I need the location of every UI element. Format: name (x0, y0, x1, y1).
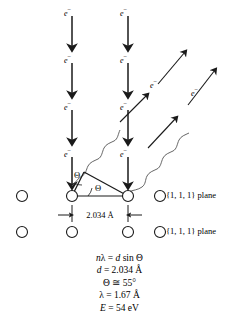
equation-bragg-condition: nλ = d sin Θ (0, 252, 239, 264)
atom-row-bottom (17, 227, 166, 238)
electron-label-low-right: e− (120, 147, 127, 159)
electron-label-diffracted-outer: e− (191, 86, 198, 98)
theta-label-base: Θ (95, 183, 101, 193)
atom-circle (17, 191, 28, 202)
equation-energy: E = 54 eV (0, 302, 239, 314)
electron-label-top-left: e− (64, 6, 71, 18)
equation-angle: Θ ≅ 55° (0, 277, 239, 289)
diffracted-beam-outer (148, 70, 215, 148)
equation-block: nλ = d sin Θ d = 2.034 Å Θ ≅ 55° λ = 1.6… (0, 252, 239, 314)
electron-label-mid2-left: e− (64, 100, 71, 112)
wave-train-right (128, 133, 189, 192)
equation-wavelength: λ = 1.67 Å (0, 289, 239, 301)
plane-label-bottom: {1, 1, 1} plane (166, 226, 216, 236)
plane-label-top: {1, 1, 1} plane (166, 190, 216, 200)
electron-label-diffracted-inner: e− (150, 78, 157, 90)
electron-label-mid1-right: e− (120, 53, 127, 65)
theta-label-apex: Θ (74, 170, 80, 180)
electron-label-low-left: e− (64, 147, 71, 159)
atom-legend-circle-top (155, 191, 166, 202)
lattice-spacing-label: 2.034 Å (74, 210, 126, 220)
electron-diffraction-figure: e− e− e− e− e− e− e− e− e− e− Θ Θ 2.034 … (0, 0, 239, 327)
electron-label-mid2-right: e− (120, 100, 127, 112)
atom-circle (17, 227, 28, 238)
atom-circle (67, 227, 78, 238)
electron-label-top-right: e− (120, 6, 127, 18)
equation-spacing: d = 2.034 Å (0, 264, 239, 276)
atom-circle (123, 191, 134, 202)
angle-arc-base (88, 188, 92, 196)
atom-circle (67, 191, 78, 202)
atom-legend-circle-bottom (155, 227, 166, 238)
atom-circle (123, 227, 134, 238)
electron-label-mid1-left: e− (64, 53, 71, 65)
